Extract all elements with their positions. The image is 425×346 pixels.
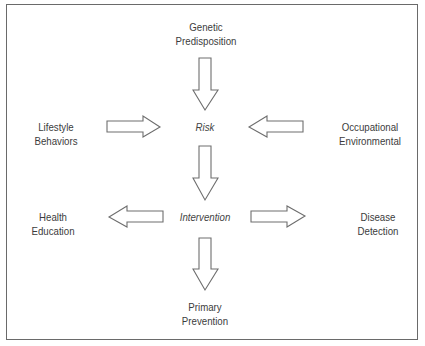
node-genetic-predisposition: Genetic Predisposition [173, 20, 240, 48]
node-label-line2: Education [28, 224, 77, 238]
arrow-down-icon [193, 58, 218, 110]
arrows-layer [0, 0, 425, 346]
arrow-right-icon [251, 206, 305, 227]
node-risk: Risk [189, 120, 221, 134]
arrow-left-icon [109, 206, 163, 227]
arrow-left-icon [249, 116, 303, 137]
node-label-line2: Environmental [335, 134, 405, 148]
node-label-line2: Detection [352, 224, 405, 238]
node-label-line1: Primary [176, 300, 234, 314]
node-disease-detection: Disease Detection [352, 210, 405, 238]
node-label-line2: Predisposition [173, 34, 240, 48]
arrow-down-icon [193, 238, 218, 290]
node-primary-prevention: Primary Prevention [176, 300, 234, 328]
node-label-line1: Lifestyle [31, 120, 80, 134]
node-occupational-environmental: Occupational Environmental [335, 120, 405, 148]
node-intervention: Intervention [172, 210, 237, 224]
node-label-line1: Disease [352, 210, 405, 224]
node-health-education: Health Education [28, 210, 77, 238]
node-label-line1: Occupational [335, 120, 405, 134]
arrow-right-icon [107, 116, 160, 137]
node-label-line2: Behaviors [31, 134, 80, 148]
node-label-line1: Genetic [173, 20, 240, 34]
node-label-line1: Health [28, 210, 77, 224]
arrow-down-icon [193, 146, 218, 200]
node-label-line2: Prevention [176, 314, 234, 328]
node-label: Intervention [172, 210, 237, 224]
node-lifestyle-behaviors: Lifestyle Behaviors [31, 120, 80, 148]
node-label: Risk [189, 120, 221, 134]
